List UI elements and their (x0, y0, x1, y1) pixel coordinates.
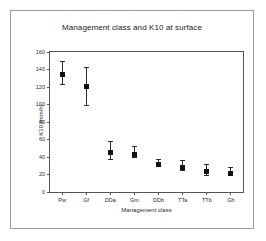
x-tick-mark (230, 192, 231, 195)
data-marker (108, 150, 113, 155)
x-tick-mark (158, 192, 159, 195)
x-tick-mark (110, 192, 111, 195)
error-bar-cap-top (132, 146, 137, 147)
y-tick-label: 40 (39, 153, 45, 162)
error-bar-cap-top (228, 167, 233, 168)
y-tick-mark (47, 122, 50, 123)
data-marker (228, 171, 233, 176)
x-tick-mark (206, 192, 207, 195)
x-tick-label: DDa (105, 197, 116, 203)
error-bar-cap-top (204, 164, 209, 165)
x-tick-mark (62, 192, 63, 195)
y-tick-mark (47, 87, 50, 88)
y-tick-label: 160 (36, 48, 45, 57)
figure-frame: Management class and K10 at surface K10 … (10, 10, 254, 229)
data-marker (156, 162, 161, 167)
error-bar-cap-bottom (84, 105, 89, 106)
x-tick-mark (134, 192, 135, 195)
y-tick-mark (47, 139, 50, 140)
x-tick-mark (182, 192, 183, 195)
error-bar-cap-top (84, 67, 89, 68)
plot-area: 020406080100120140160 PwGfDDaGmDDbTTaTTb… (49, 51, 244, 193)
y-tick-mark (47, 157, 50, 158)
chart-title: Management class and K10 at surface (11, 23, 253, 32)
y-tick-mark (47, 52, 50, 53)
data-marker (132, 152, 137, 157)
x-tick-label: Gm (130, 197, 139, 203)
y-tick-label: 120 (36, 83, 45, 92)
x-tick-label: TTa (178, 197, 187, 203)
x-axis-title: Management class (49, 207, 244, 213)
x-tick-label: Pw (58, 197, 66, 203)
x-tick-label: Gf (83, 197, 89, 203)
error-bar-cap-top (156, 159, 161, 160)
error-bar-cap-bottom (108, 159, 113, 160)
y-tick-label: 100 (36, 100, 45, 109)
error-bar-cap-top (108, 141, 113, 142)
x-tick-label: TTb (202, 197, 212, 203)
error-bar-cap-top (60, 61, 65, 62)
y-tick-mark (47, 69, 50, 70)
x-tick-mark (86, 192, 87, 195)
y-tick-mark (47, 174, 50, 175)
error-bar-cap-bottom (204, 175, 209, 176)
data-marker (204, 169, 209, 174)
y-tick-label: 20 (39, 170, 45, 179)
y-tick-label: 60 (39, 135, 45, 144)
y-tick-mark (47, 192, 50, 193)
x-tick-label: DDb (153, 197, 164, 203)
error-bar-cap-top (180, 160, 185, 161)
x-tick-label: Gh (227, 197, 234, 203)
y-tick-mark (47, 104, 50, 105)
error-bar-cap-bottom (60, 84, 65, 85)
data-marker (84, 84, 89, 89)
data-marker (60, 72, 65, 77)
y-tick-label: 80 (39, 118, 45, 127)
data-marker (180, 165, 185, 170)
y-tick-label: 140 (36, 65, 45, 74)
error-bar-cap-bottom (132, 157, 137, 158)
y-tick-label: 0 (42, 188, 45, 197)
error-bar-cap-bottom (180, 170, 185, 171)
